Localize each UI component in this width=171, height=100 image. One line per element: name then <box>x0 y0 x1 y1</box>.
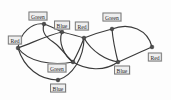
node-label-blue-bottom: Blue <box>50 84 66 93</box>
node-label-green-topright: Green <box>102 13 121 22</box>
vertex-blue-upper[interactable] <box>60 30 64 34</box>
vertex-blue-right[interactable] <box>116 60 120 64</box>
edge-blue-upper-to-red-center <box>62 32 84 38</box>
edge-red-center-to-blue-right <box>84 38 118 62</box>
edge-green-topright-to-red-right <box>112 26 152 47</box>
vertex-group <box>16 22 154 82</box>
node-label-red-center: Red <box>75 22 89 31</box>
vertex-red-left[interactable] <box>16 46 20 50</box>
edge-red-left-to-green-center <box>18 48 73 63</box>
edge-red-left-to-blue-upper <box>18 32 62 48</box>
vertex-red-center[interactable] <box>82 36 86 40</box>
node-label-blue-right: Blue <box>114 66 130 75</box>
diagram-canvas: Green Blue Red Green Red Red Blue Green … <box>0 0 171 100</box>
graph-svg <box>0 0 171 100</box>
node-label-red-left: Red <box>8 36 22 45</box>
node-label-green-top: Green <box>28 12 47 21</box>
vertex-blue-bottom[interactable] <box>56 78 60 82</box>
edge-green-topright-to-blue-right <box>112 29 118 62</box>
vertex-green-topright[interactable] <box>110 27 114 31</box>
vertex-red-right[interactable] <box>150 45 154 49</box>
edge-blue-right-to-green-center <box>73 62 118 69</box>
vertex-green-top[interactable] <box>42 22 46 26</box>
edge-group <box>18 24 152 80</box>
vertex-green-center[interactable] <box>71 60 75 64</box>
node-label-green-center: Green <box>47 64 66 73</box>
node-label-blue-upper: Blue <box>54 21 70 30</box>
node-label-red-right: Red <box>148 53 162 62</box>
edge-blue-upper-to-green-center <box>61 32 73 62</box>
